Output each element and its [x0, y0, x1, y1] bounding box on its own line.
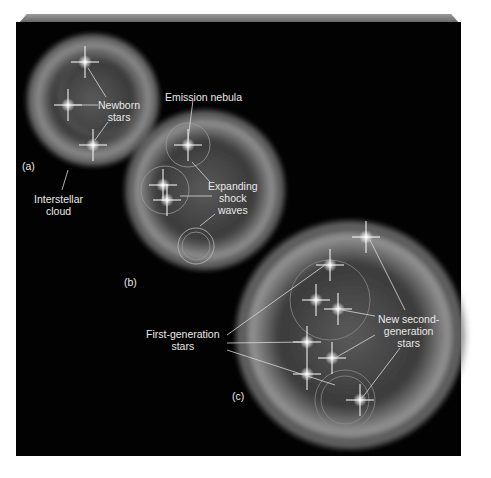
label-interstellar-cloud: Interstellar cloud	[34, 193, 83, 217]
panel-label-b: (b)	[124, 276, 137, 288]
label-emission-nebula: Emission nebula	[165, 91, 242, 103]
label-expanding-shock-waves: Expanding shock waves	[208, 180, 258, 216]
label-newborn-stars: Newborn stars	[98, 99, 140, 123]
star-formation-illustration	[0, 0, 491, 478]
label-new-second-generation-stars: New second- generation stars	[378, 313, 439, 349]
panel-label-a: (a)	[22, 160, 35, 172]
emission-nebula-cloud-b	[123, 108, 287, 272]
panel-label-c: (c)	[232, 390, 244, 402]
label-first-generation-stars: First-generation stars	[146, 328, 220, 352]
